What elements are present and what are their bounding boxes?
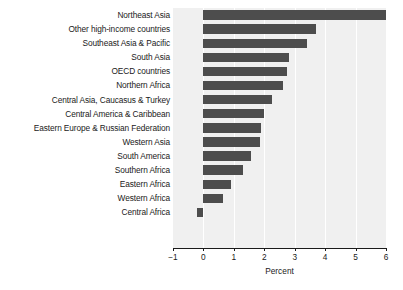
bar-row [173,121,386,135]
bar[interactable] [203,165,243,174]
tick-label: 2 [262,252,267,262]
tick-mark [325,248,326,251]
bar-row [173,205,386,219]
bar-row [173,8,386,22]
bar-row [173,50,386,64]
tick-label: 1 [232,252,237,262]
bar[interactable] [203,109,264,118]
bar-row [173,64,386,78]
bar-row [173,149,386,163]
bar[interactable] [203,81,282,90]
bar-row [173,135,386,149]
bar-row [173,177,386,191]
bar[interactable] [197,208,203,217]
category-label: South America [0,149,176,163]
tick-label: 0 [201,252,206,262]
category-label: Western Asia [0,135,176,149]
category-axis-labels: Northeast AsiaOther high-income countrie… [0,8,176,219]
bar-row [173,93,386,107]
bar[interactable] [203,39,306,48]
bar[interactable] [203,67,287,76]
bar[interactable] [203,123,261,132]
category-label: Central Asia, Caucasus & Turkey [0,93,176,107]
tick-mark [234,248,235,251]
category-label: Southeast Asia & Pacific [0,36,176,50]
tick-label: −1 [168,252,177,262]
bar-row [173,163,386,177]
category-label: Northeast Asia [0,8,176,22]
category-label: Central Africa [0,205,176,219]
tick-mark [173,248,174,251]
bar[interactable] [203,194,223,203]
bar-row [173,36,386,50]
category-label: OECD countries [0,64,176,78]
category-label: Southern Africa [0,163,176,177]
tick-label: 6 [384,252,389,262]
category-label: South Asia [0,50,176,64]
tick-mark [295,248,296,251]
tick-mark [264,248,265,251]
category-label: Northern Africa [0,78,176,92]
bar[interactable] [203,151,250,160]
category-label: Other high-income countries [0,22,176,36]
category-label: Eastern Europe & Russian Federation [0,121,176,135]
bar[interactable] [203,53,288,62]
tick-label: 5 [353,252,358,262]
category-label: Western Africa [0,191,176,205]
x-axis-title: Percent [173,266,386,276]
tick-mark [203,248,204,251]
bar-chart: Northeast AsiaOther high-income countrie… [0,0,403,290]
plot-area [173,8,386,248]
tick-label: 3 [292,252,297,262]
bar-row [173,107,386,121]
bar[interactable] [203,10,386,19]
tick-mark [356,248,357,251]
bar-row [173,191,386,205]
tick-label: 4 [323,252,328,262]
x-axis-line [173,248,386,249]
category-label: Eastern Africa [0,177,176,191]
bar-row [173,78,386,92]
category-label: Central America & Caribbean [0,107,176,121]
bar[interactable] [203,95,271,104]
bar[interactable] [203,180,230,189]
bar-row [173,22,386,36]
bar[interactable] [203,24,316,33]
bar[interactable] [203,137,259,146]
tick-mark [386,248,387,251]
